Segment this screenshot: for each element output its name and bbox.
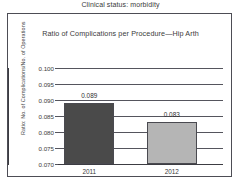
bar-value-label: 0.089 <box>81 92 97 99</box>
y-axis-tick-label: 0.070 <box>39 161 54 168</box>
gridline <box>58 164 223 165</box>
gridline <box>58 68 223 69</box>
gridline <box>58 84 223 85</box>
chart-frame: Ratio of Complications per Procedure—Hip… <box>7 13 232 177</box>
y-axis-tick-mark <box>55 100 58 101</box>
y-axis-tick-labels: 0.1000.0950.0900.0850.0800.0750.070 <box>8 68 56 164</box>
y-axis-tick-mark <box>55 164 58 165</box>
y-axis-tick-label: 0.095 <box>39 81 54 88</box>
y-axis-tick-mark <box>55 116 58 117</box>
x-axis-label-2011: 2011 <box>82 168 96 175</box>
bar-value-label: 0.083 <box>164 111 180 118</box>
y-axis-tick-label: 0.085 <box>39 113 54 120</box>
y-axis-tick-label: 0.075 <box>39 145 54 152</box>
y-axis-tick-mark <box>55 84 58 85</box>
x-axis-tick-labels: 20112012 <box>58 168 223 180</box>
page-header-text: Clinical status: morbidity <box>0 1 241 8</box>
y-axis-tick-label: 0.100 <box>39 65 54 72</box>
y-axis-tick-label: 0.080 <box>39 129 54 136</box>
x-axis-label-2012: 2012 <box>165 168 179 175</box>
y-axis-tick-label: 0.090 <box>39 97 54 104</box>
plot-area: 0.0890.083 <box>58 68 223 164</box>
bar-2011[interactable] <box>64 103 114 164</box>
y-axis-line <box>8 68 9 165</box>
y-axis-tick-mark <box>55 148 58 149</box>
chart-title: Ratio of Complications per Procedure—Hip… <box>8 29 233 38</box>
y-axis-tick-mark <box>55 132 58 133</box>
gridline <box>58 100 223 101</box>
bar-2012[interactable] <box>147 122 197 164</box>
y-axis-tick-mark <box>55 68 58 69</box>
